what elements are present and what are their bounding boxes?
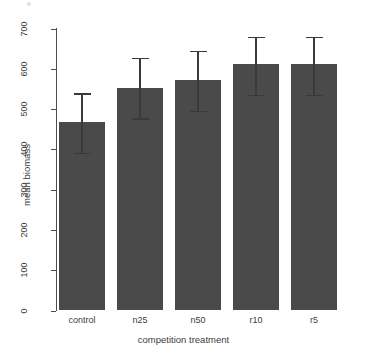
bars-layer	[0, 0, 367, 353]
error-bar-cap-lower-n50	[190, 111, 207, 112]
error-bar-cap-lower-r10	[248, 95, 265, 96]
error-bar-cap-lower-r5	[306, 95, 323, 96]
error-bar-line-r5	[313, 37, 314, 95]
bar-r5	[291, 64, 337, 310]
error-bar-cap-upper-n50	[190, 51, 207, 52]
error-bar-line-control	[81, 93, 82, 152]
bar-chart: 0100200300400500600700 mean biomass cont…	[0, 0, 367, 353]
x-tick-label-n25: n25	[132, 315, 147, 325]
error-bar-line-n50	[197, 51, 198, 111]
bar-n25	[117, 88, 163, 311]
error-bar-cap-lower-control	[74, 153, 91, 154]
error-bar-cap-upper-control	[74, 93, 91, 94]
error-bar-cap-lower-n25	[132, 118, 149, 119]
error-bar-line-r10	[255, 37, 256, 95]
error-bar-line-n25	[139, 58, 140, 119]
x-tick-label-control: control	[68, 315, 95, 325]
x-axis-title: competition treatment	[0, 334, 367, 345]
x-tick-label-r5: r5	[310, 315, 318, 325]
error-bar-cap-upper-r10	[248, 37, 265, 38]
x-tick-label-r10: r10	[249, 315, 262, 325]
error-bar-cap-upper-n25	[132, 58, 149, 59]
bar-r10	[233, 64, 279, 310]
x-tick-label-n50: n50	[190, 315, 205, 325]
error-bar-cap-upper-r5	[306, 37, 323, 38]
bar-n50	[175, 80, 221, 311]
